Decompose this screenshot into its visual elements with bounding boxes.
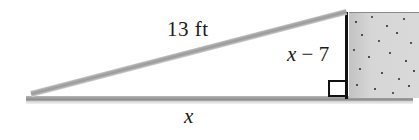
wall-block [349, 13, 419, 98]
vertical-leg-label: x − 7 [287, 44, 329, 65]
minus-operator: − [296, 42, 318, 66]
hypotenuse-label: 13 ft [167, 19, 209, 40]
right-angle-marker [328, 80, 345, 97]
base-leg-label: x [184, 106, 193, 127]
vertical-leg-constant: 7 [319, 42, 330, 66]
vertical-leg-variable: x [287, 42, 296, 66]
ground-shadow [26, 101, 413, 104]
ladder-triangle-figure: 13 ft x − 7 x [0, 0, 419, 140]
